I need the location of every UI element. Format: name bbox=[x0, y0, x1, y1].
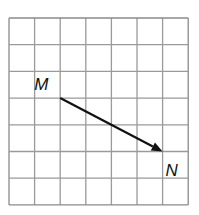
vector-shaft bbox=[60, 98, 153, 146]
point-labels: MN bbox=[34, 75, 178, 179]
grid-diagram: MN bbox=[0, 0, 199, 215]
grid-lines bbox=[9, 18, 188, 205]
point-label-m: M bbox=[34, 75, 49, 94]
point-label-n: N bbox=[166, 161, 179, 180]
